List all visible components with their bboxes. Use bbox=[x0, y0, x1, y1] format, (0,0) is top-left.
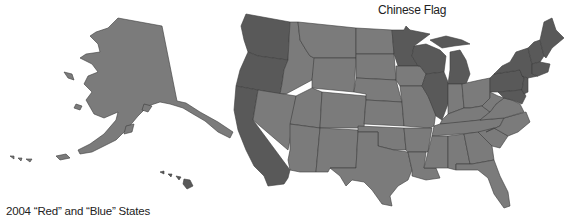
state-ia bbox=[396, 66, 426, 86]
state-co bbox=[320, 92, 366, 128]
contiguous-us bbox=[234, 14, 564, 208]
state-wy bbox=[312, 58, 356, 92]
state-ma-ct-ri bbox=[532, 62, 550, 76]
state-nd bbox=[356, 28, 394, 54]
state-ar bbox=[404, 128, 432, 152]
us-states-map bbox=[0, 0, 569, 224]
hawaii bbox=[160, 171, 193, 189]
map-caption: 2004 “Red” and “Blue” States bbox=[6, 205, 150, 217]
alaska bbox=[10, 18, 233, 162]
state-sd bbox=[356, 54, 396, 80]
state-ks bbox=[364, 100, 404, 126]
state-az bbox=[288, 124, 320, 172]
flag-caption: Chinese Flag bbox=[378, 3, 446, 17]
state-nm bbox=[316, 128, 358, 172]
state-me bbox=[540, 18, 564, 58]
state-ut bbox=[290, 88, 322, 128]
state-fl bbox=[456, 160, 510, 208]
